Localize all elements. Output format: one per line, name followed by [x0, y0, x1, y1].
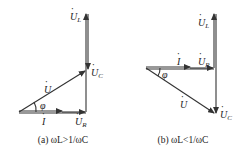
dot-i: ·: [42, 108, 45, 119]
label-phi: φ: [162, 69, 168, 80]
phasor-diagrams: UL · UC · U · φ I · UR · (a) ωL>1/ωC UL …: [0, 0, 246, 155]
dot-u-r: ·: [199, 48, 202, 59]
dot-u: ·: [181, 91, 184, 102]
dot-i: ·: [177, 48, 180, 59]
total-voltage-phasor: [19, 71, 85, 112]
dot-u-c: ·: [92, 59, 95, 70]
dot-u: ·: [45, 76, 48, 87]
dot-u-r: ·: [76, 108, 79, 119]
dot-u-c: ·: [221, 101, 224, 112]
diagram-a: UL · UC · U · φ I · UR · (a) ωL>1/ωC: [19, 3, 103, 146]
caption-a: (a) ωL>1/ωC: [38, 135, 88, 146]
diagram-b: UL · UR · I · φ U · UC · (b) ωL<1/ωC: [146, 9, 232, 146]
dot-u-l: ·: [71, 3, 74, 14]
dot-u-l: ·: [199, 9, 202, 20]
caption-b: (b) ωL<1/ωC: [158, 135, 209, 146]
